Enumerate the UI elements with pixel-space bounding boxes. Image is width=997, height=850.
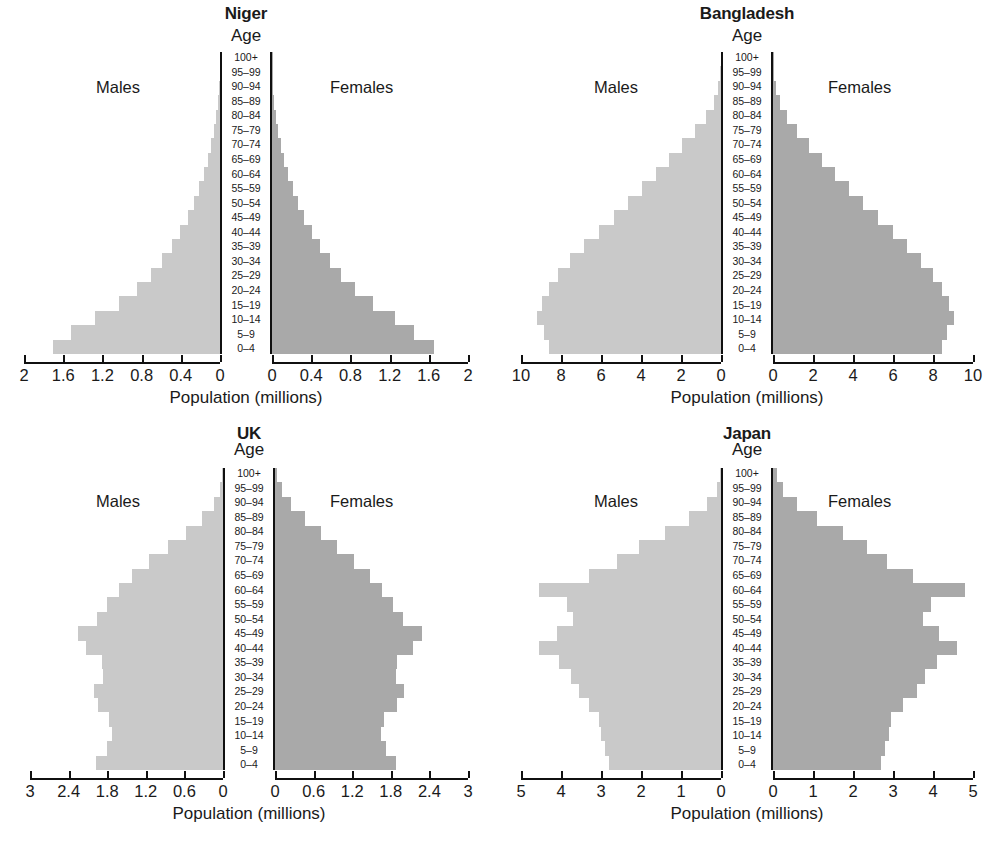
male-bar-uk-45-49 <box>78 626 223 640</box>
x-tick-label-male-bangladesh-0: 10 <box>512 366 530 385</box>
x-tick-label-male-japan-3: 2 <box>636 782 645 801</box>
table-row <box>30 712 223 726</box>
table-row <box>30 641 223 655</box>
table-row <box>272 325 468 339</box>
age-group-label-60-64: 60–64 <box>234 585 263 596</box>
table-row <box>773 655 973 669</box>
age-group-label-30-34: 30–34 <box>732 672 761 683</box>
table-row <box>30 526 223 540</box>
age-group-label-80-84: 80–84 <box>732 526 761 537</box>
table-row <box>773 225 973 239</box>
table-row <box>521 340 721 354</box>
table-row <box>773 282 973 296</box>
table-row <box>773 153 973 167</box>
female-bar-japan-45-49 <box>773 626 939 640</box>
table-row <box>275 526 468 540</box>
x-tick-male-bangladesh-1 <box>561 355 563 362</box>
age-label-column-uk: 100+95–9990–9485–8980–8475–7970–7465–696… <box>223 468 275 770</box>
age-group-label-20-24: 20–24 <box>732 285 761 296</box>
male-bar-bangladesh-55-59 <box>642 181 721 195</box>
table-row <box>521 526 721 540</box>
male-bar-uk-75-79 <box>168 540 223 554</box>
female-bar-niger-55-59 <box>272 181 293 195</box>
x-tick-label-female-niger-5: 2 <box>463 366 472 385</box>
x-tick-female-japan-2 <box>853 771 855 778</box>
age-group-label-70-74: 70–74 <box>231 139 260 150</box>
age-group-label-95-99: 95–99 <box>732 483 761 494</box>
table-row <box>773 641 973 655</box>
table-row <box>521 239 721 253</box>
table-row <box>521 727 721 741</box>
male-bar-japan-10-14 <box>601 727 721 741</box>
x-tick-label-female-bangladesh-3: 6 <box>888 366 897 385</box>
table-row <box>275 741 468 755</box>
table-row <box>24 325 220 339</box>
female-bar-uk-75-79 <box>275 540 337 554</box>
table-row <box>773 626 973 640</box>
table-row <box>24 268 220 282</box>
female-bar-bangladesh-90-94 <box>773 81 776 95</box>
x-tick-label-female-uk-3: 1.8 <box>379 782 402 801</box>
x-tick-label-male-niger-0: 2 <box>19 366 28 385</box>
x-tick-male-niger-2 <box>102 355 104 362</box>
age-group-label-15-19: 15–19 <box>231 300 260 311</box>
table-row <box>275 511 468 525</box>
x-axis-line-female-uk <box>275 778 468 780</box>
female-bar-bangladesh-0-4 <box>773 340 942 354</box>
table-row <box>521 52 721 66</box>
table-row <box>521 684 721 698</box>
female-bar-japan-80-84 <box>773 526 843 540</box>
age-group-label-10-14: 10–14 <box>231 314 260 325</box>
male-bar-japan-80-84 <box>665 526 721 540</box>
female-bar-uk-95-99 <box>275 482 282 496</box>
table-row <box>773 95 973 109</box>
female-bar-bangladesh-55-59 <box>773 181 849 195</box>
table-row <box>24 253 220 267</box>
x-tick-female-uk-2 <box>352 771 354 778</box>
x-tick-female-japan-3 <box>893 771 895 778</box>
age-axis-header-japan: Age <box>521 440 973 460</box>
table-row <box>30 698 223 712</box>
table-row <box>24 110 220 124</box>
x-tick-label-male-niger-2: 1.2 <box>91 366 114 385</box>
chart-panel-uk: UKAge100+95–9990–9485–8980–8475–7970–746… <box>0 420 497 850</box>
table-row <box>521 669 721 683</box>
male-bar-bangladesh-15-19 <box>542 296 721 310</box>
table-row <box>272 95 468 109</box>
age-group-label-80-84: 80–84 <box>234 526 263 537</box>
table-row <box>773 138 973 152</box>
male-bar-japan-60-64 <box>539 583 721 597</box>
male-bar-japan-85-89 <box>689 511 721 525</box>
x-tick-label-female-uk-2: 1.2 <box>341 782 364 801</box>
table-row <box>773 239 973 253</box>
age-group-label-20-24: 20–24 <box>732 701 761 712</box>
x-axis-line-male-bangladesh <box>521 362 721 364</box>
age-group-label-0-4: 0–4 <box>738 759 756 770</box>
table-row <box>521 124 721 138</box>
x-tick-label-male-uk-5: 0 <box>218 782 227 801</box>
table-row <box>24 282 220 296</box>
female-bar-uk-85-89 <box>275 511 305 525</box>
male-bar-niger-50-54 <box>194 196 220 210</box>
female-bar-japan-10-14 <box>773 727 889 741</box>
table-row <box>773 167 973 181</box>
age-axis-header-bangladesh: Age <box>521 26 973 46</box>
male-bar-niger-0-4 <box>53 340 220 354</box>
x-tick-label-male-uk-2: 1.8 <box>96 782 119 801</box>
age-group-label-30-34: 30–34 <box>234 672 263 683</box>
table-row <box>275 569 468 583</box>
x-tick-label-female-bangladesh-2: 4 <box>848 366 857 385</box>
x-tick-female-niger-5 <box>468 355 470 362</box>
age-label-column-japan: 100+95–9990–9485–8980–8475–7970–7465–696… <box>721 468 773 770</box>
age-group-label-5-9: 5–9 <box>738 329 756 340</box>
male-bar-bangladesh-25-29 <box>558 268 721 282</box>
age-group-label-75-79: 75–79 <box>231 125 260 136</box>
age-group-label-90-94: 90–94 <box>234 497 263 508</box>
x-tick-label-female-uk-1: 0.6 <box>302 782 325 801</box>
male-bar-uk-65-69 <box>132 569 223 583</box>
age-group-label-35-39: 35–39 <box>732 657 761 668</box>
female-bars-uk <box>275 468 468 770</box>
males-legend-label-uk: Males <box>96 492 140 511</box>
x-tick-label-female-japan-3: 3 <box>888 782 897 801</box>
age-group-label-55-59: 55–59 <box>231 183 260 194</box>
